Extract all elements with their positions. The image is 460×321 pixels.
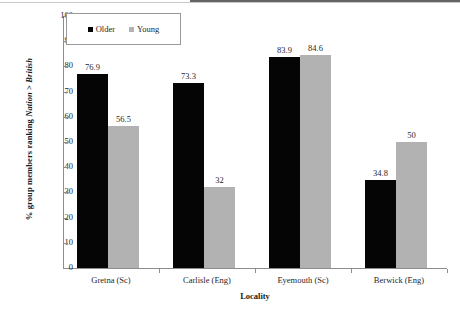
y-axis-tick-label: 0 [19, 262, 73, 272]
y-axis-tick-label: 70 [19, 86, 73, 96]
y-axis-tick-mark [64, 268, 68, 269]
legend-label: Older [96, 24, 115, 34]
bar-young-1: 32 [204, 187, 235, 268]
y-axis-tick-label: 90 [19, 35, 73, 45]
bar-value-label: 84.6 [308, 43, 323, 53]
bar-young-0: 56.5 [108, 126, 139, 268]
y-axis-tick-label: 60 [19, 111, 73, 121]
x-axis-separator-tick [159, 269, 160, 273]
x-axis-title: Locality [63, 291, 447, 301]
bar-chart: % group members ranking Nation > British… [0, 0, 460, 321]
y-axis-tick-label: 10 [19, 237, 73, 247]
y-axis-tick-mark [64, 243, 68, 244]
legend-item-young: Young [129, 24, 159, 34]
bar-older-3: 34.8 [365, 180, 396, 268]
bar-value-label: 34.8 [373, 168, 388, 178]
x-axis-category-label: Carlisle (Eng) [183, 275, 231, 285]
y-axis-tick-mark [64, 92, 68, 93]
bar-value-label: 32 [215, 175, 224, 185]
x-axis-category-label: Gretna (Sc) [91, 275, 130, 285]
bar-value-label: 76.9 [85, 62, 100, 72]
y-axis-tick-mark [64, 66, 68, 67]
bar-value-label: 73.3 [181, 71, 196, 81]
y-axis-tick-label: 50 [19, 136, 73, 146]
bar-older-2: 83.9 [269, 57, 300, 268]
x-axis-category-label: Eyemouth (Sc) [277, 275, 328, 285]
x-axis-separator-tick [255, 269, 256, 273]
y-axis-tick-label: 80 [19, 60, 73, 70]
y-axis-tick-mark [64, 167, 68, 168]
legend-item-older: Older [88, 24, 115, 34]
legend: OlderYoung [66, 13, 181, 45]
x-axis-end-tick [447, 269, 448, 273]
y-axis-tick-label: 100 [19, 10, 73, 20]
bar-older-1: 73.3 [173, 83, 204, 268]
y-axis-tick-mark [64, 192, 68, 193]
bar-value-label: 50 [407, 130, 416, 140]
bar-value-label: 83.9 [277, 45, 292, 55]
bar-young-3: 50 [396, 142, 427, 268]
gray-square-icon [129, 27, 134, 32]
y-axis-tick-mark [64, 142, 68, 143]
y-axis-tick-label: 20 [19, 212, 73, 222]
black-square-icon [88, 27, 93, 32]
legend-label: Young [137, 24, 159, 34]
y-axis-tick-label: 30 [19, 186, 73, 196]
y-axis-tick-label: 40 [19, 161, 73, 171]
x-axis-separator-tick [351, 269, 352, 273]
bar-young-2: 84.6 [300, 55, 331, 268]
x-axis-category-label: Berwick (Eng) [374, 275, 424, 285]
bar-value-label: 56.5 [116, 114, 131, 124]
y-axis-tick-mark [64, 117, 68, 118]
y-axis-tick-mark [64, 218, 68, 219]
bar-older-0: 76.9 [77, 74, 108, 268]
